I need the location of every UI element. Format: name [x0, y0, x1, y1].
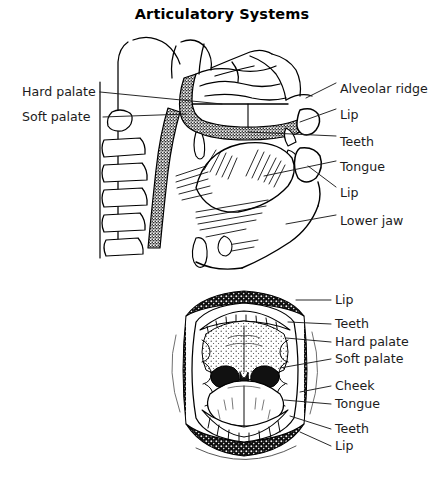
label-lip-upper-1: Lip [340, 108, 359, 122]
label-lower-jaw: Lower jaw [340, 214, 403, 228]
label-hard-palate-upper: Hard palate [22, 85, 96, 99]
label-soft-palate-upper: Soft palate [22, 110, 90, 124]
mid-sagittal-head-drawing [100, 37, 321, 269]
label-cheek: Cheek [335, 379, 375, 393]
open-mouth-drawing [172, 291, 318, 460]
label-lip-upper-2: Lip [340, 186, 359, 200]
label-hard-palate-lower: Hard palate [335, 335, 409, 349]
label-teeth-lower-2: Teeth [335, 422, 369, 436]
label-teeth-upper: Teeth [340, 135, 374, 149]
label-teeth-lower-1: Teeth [335, 317, 369, 331]
label-lip-lower-2: Lip [335, 439, 354, 453]
label-tongue-lower: Tongue [335, 397, 380, 411]
articulatory-systems-figure: Articulatory Systems [0, 0, 444, 502]
label-tongue-upper: Tongue [340, 160, 385, 174]
label-alveolar-ridge: Alveolar ridge [340, 82, 428, 96]
anatomy-illustration [0, 0, 444, 502]
label-soft-palate-lower: Soft palate [335, 352, 403, 366]
label-lip-lower-1: Lip [335, 293, 354, 307]
